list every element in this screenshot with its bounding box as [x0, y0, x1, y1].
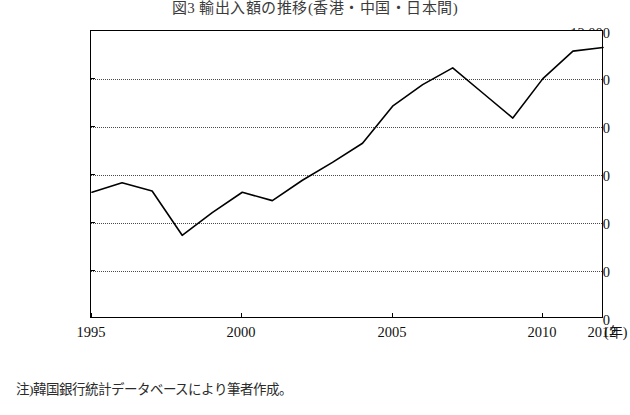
series-line-trade-value — [91, 31, 604, 319]
y-tick-mark-4000 — [90, 222, 95, 223]
source-note: 注)韓国銀行統計データベースにより筆者作成。 — [16, 378, 293, 398]
x-tick-label-2000: 2000 — [211, 325, 271, 340]
x-tick-mark-1995 — [91, 313, 92, 318]
y-tick-mark-6000 — [90, 174, 95, 175]
x-tick-mark-2010 — [542, 313, 543, 318]
x-tick-label-2010: 2010 — [512, 325, 572, 340]
y-tick-mark-10000 — [90, 78, 95, 79]
x-axis-unit-label: (年) — [604, 326, 627, 340]
axis-frame — [90, 30, 603, 318]
plot-area: 12,000 10,000 8,000 6,000 4,000 2,000 0 — [18, 22, 610, 352]
x-tick-mark-2012 — [602, 313, 603, 318]
figure-title: 図3 輸出入額の推移(香港・中国・日本間) — [0, 0, 630, 17]
x-tick-mark-2005 — [392, 313, 393, 318]
x-tick-label-2005: 2005 — [362, 325, 422, 340]
x-tick-label-1995: 1995 — [61, 325, 121, 340]
figure-container: 図3 輸出入額の推移(香港・中国・日本間) 12,000 10,000 8,00… — [0, 0, 630, 415]
y-tick-mark-8000 — [90, 126, 95, 127]
y-tick-mark-12000 — [90, 30, 95, 31]
x-tick-mark-2000 — [241, 313, 242, 318]
y-tick-mark-2000 — [90, 270, 95, 271]
